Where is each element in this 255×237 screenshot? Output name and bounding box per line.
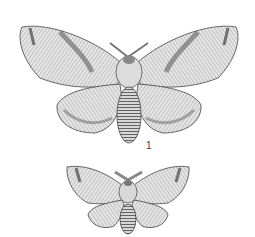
small-moth [67,166,189,234]
large-moth-illustration [0,0,255,237]
large-moth [20,26,238,143]
specimen-label: 1 [146,140,152,151]
